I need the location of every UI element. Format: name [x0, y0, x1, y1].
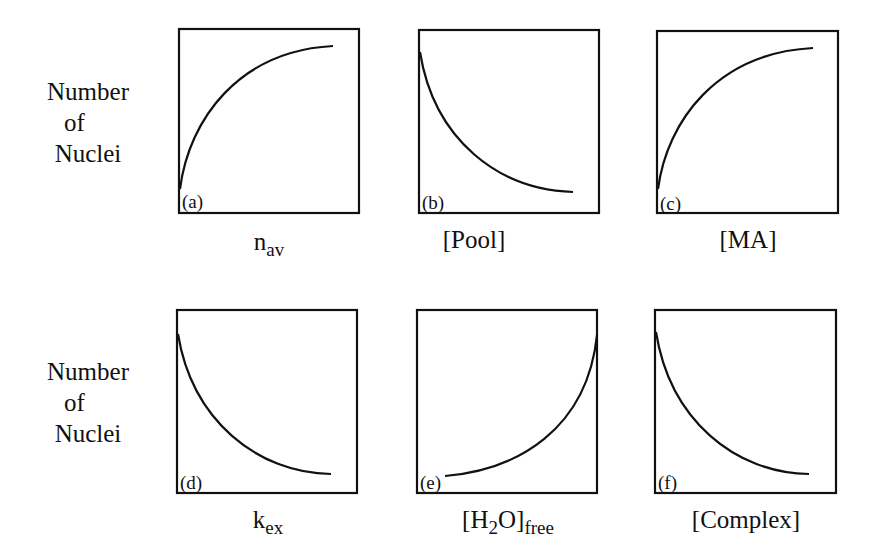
x-axis-label-d: kex [158, 506, 378, 539]
x-label-sub: free [524, 517, 554, 538]
curve-a [180, 46, 333, 189]
x-label-main: O] [498, 506, 524, 533]
panel-a: (a) [179, 29, 359, 213]
x-axis-label-c: [MA] [638, 226, 858, 254]
y-label-line: of [18, 107, 158, 138]
y-label-line: Nuclei [18, 138, 158, 169]
plot-d [177, 310, 357, 494]
panel-tag: (e) [420, 473, 441, 493]
y-label-line: of [18, 387, 158, 418]
panel-d: (d) [177, 310, 357, 494]
curve-e [445, 335, 597, 476]
panel-b: (b) [419, 30, 599, 214]
panel-tag: (f) [658, 473, 677, 493]
y-label-line: Number [18, 356, 158, 387]
plot-e [417, 310, 597, 494]
panel-tag: (c) [660, 194, 681, 214]
x-axis-label-f: [Complex] [636, 506, 856, 534]
panel-c: (c) [657, 31, 837, 215]
curve-c [658, 48, 813, 189]
curve-d [178, 334, 331, 474]
x-label-mid-sub: 2 [488, 517, 498, 538]
x-axis-label-a: nav [159, 228, 379, 261]
x-label-main: [MA] [720, 226, 777, 253]
curve-f [656, 332, 809, 474]
panel-tag: (a) [182, 192, 203, 212]
y-axis-label-row1: Number of Nuclei [18, 76, 158, 169]
x-label-pre: [H [462, 506, 488, 533]
x-label-main: k [253, 506, 266, 533]
plot-b [419, 30, 599, 214]
plot-c [657, 31, 837, 215]
plot-f [655, 310, 835, 494]
panel-e: (e) [417, 310, 597, 494]
y-label-line: Nuclei [18, 418, 158, 449]
panel-tag: (b) [422, 193, 444, 213]
x-label-sub: ex [265, 517, 283, 538]
x-label-main: [Complex] [692, 506, 800, 533]
x-axis-label-e: [H2O]free [398, 506, 618, 539]
panel-tag: (d) [180, 473, 202, 493]
x-label-sub: av [266, 239, 284, 260]
y-axis-label-row2: Number of Nuclei [18, 356, 158, 449]
panel-f: (f) [655, 310, 835, 494]
x-axis-label-b: [Pool] [364, 226, 584, 254]
curve-b [420, 52, 573, 192]
plot-a [179, 29, 359, 213]
x-label-main: [Pool] [443, 226, 506, 253]
y-label-line: Number [18, 76, 158, 107]
x-label-main: n [254, 228, 267, 255]
